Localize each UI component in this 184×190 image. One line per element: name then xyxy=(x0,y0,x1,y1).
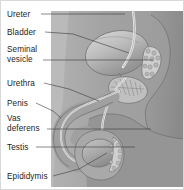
label-ureter-text: Ureter xyxy=(7,10,31,19)
anatomy-illustration: Ureter Bladder Seminal vesicle Urethra P… xyxy=(1,1,184,190)
label-epididymis-text: Epididymis xyxy=(7,172,48,181)
label-vas-deferens-text-line2: deferens xyxy=(7,124,40,133)
anatomy-figure: Ureter Bladder Seminal vesicle Urethra P… xyxy=(0,0,184,190)
label-testis-text: Testis xyxy=(7,143,29,152)
label-bladder-text: Bladder xyxy=(7,28,36,37)
label-penis-text: Penis xyxy=(7,99,28,108)
label-seminal-vesicle-text-line1: Seminal xyxy=(7,45,37,54)
label-seminal-vesicle-text-line2: vesicle xyxy=(7,55,33,64)
illustration-panel xyxy=(51,11,184,187)
label-urethra-text: Urethra xyxy=(7,79,35,88)
label-vas-deferens-text-line1: Vas xyxy=(7,114,21,123)
